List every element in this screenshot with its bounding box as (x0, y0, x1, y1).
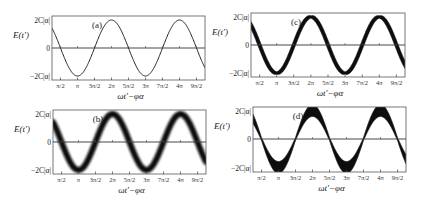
y-tick-label: −2C|α| (229, 69, 249, 78)
x-tick-label: π/2 (57, 176, 65, 183)
x-tick-label: 3π (142, 82, 149, 89)
y-tick-label: 2C|α| (34, 16, 50, 25)
y-axis-title: E(t′) (12, 30, 29, 40)
x-tick-label: 9π/2 (391, 79, 403, 86)
x-tick-label: 4π (377, 174, 384, 181)
x-tick-label: 3π/2 (290, 174, 302, 181)
y-tick-label: 0 (47, 138, 51, 147)
x-tick-label: 7π/2 (158, 176, 170, 183)
x-tick-label: π (275, 79, 279, 86)
y-tick-label: 2C|α| (235, 107, 251, 116)
x-tick-label: 2π (308, 79, 315, 86)
panel-b: π/2π3π/22π5π/23π7π/24π9π/22C|α|0−2C|α|E(… (13, 110, 206, 195)
x-tick-label: π/2 (257, 174, 265, 181)
x-tick-label: 4π (177, 176, 184, 183)
x-tick-label: 5π/2 (123, 82, 135, 89)
x-tick-label: 2π (309, 174, 316, 181)
x-axis-title: ωt′−φα (118, 185, 145, 195)
x-axis-title: ωt′−φα (117, 91, 144, 101)
x-tick-label: 3π (342, 79, 349, 86)
x-tick-label: 5π/2 (322, 79, 334, 86)
y-tick-label: −2C|α| (31, 166, 51, 175)
figure: π/2π3π/22π5π/23π7π/24π9π/22C|α|0−2C|α|E(… (0, 0, 427, 202)
x-tick-label: 2π (108, 82, 115, 89)
y-tick-label: 0 (46, 44, 50, 53)
y-tick-label: −2C|α| (231, 164, 251, 173)
x-tick-label: 9π/2 (192, 176, 204, 183)
x-tick-label: 7π/2 (356, 79, 368, 86)
x-tick-label: 5π/2 (324, 174, 336, 181)
x-tick-label: 3π (343, 174, 350, 181)
x-tick-label: 3π (143, 176, 150, 183)
y-axis-title: E(t′) (13, 124, 30, 134)
x-tick-label: 7π/2 (358, 174, 370, 181)
y-tick-label: −2C|α| (30, 72, 50, 81)
panel-c: π/2π3π/22π5π/23π7π/24π9π/22C|α|0−2C|α|E(… (211, 13, 405, 98)
x-tick-label: π/2 (56, 82, 64, 89)
x-tick-label: π (76, 82, 80, 89)
x-tick-label: 2π (109, 176, 116, 183)
y-tick-label: 2C|α| (233, 13, 249, 22)
x-tick-label: π (277, 174, 281, 181)
panel-label: (b) (93, 114, 104, 124)
y-tick-label: 0 (245, 41, 249, 50)
y-tick-label: 2C|α| (35, 110, 51, 119)
x-tick-label: π (77, 176, 81, 183)
panel-a: π/2π3π/22π5π/23π7π/24π9π/22C|α|0−2C|α|E(… (12, 16, 205, 101)
x-tick-label: 9π/2 (191, 82, 203, 89)
x-tick-label: 4π (376, 79, 383, 86)
y-axis-title: E(t′) (211, 27, 228, 37)
x-tick-label: 9π/2 (392, 174, 404, 181)
x-tick-label: 7π/2 (157, 82, 169, 89)
panel-label: (c) (291, 17, 301, 27)
panel-label: (a) (92, 20, 102, 30)
y-tick-label: 0 (247, 135, 251, 144)
x-axis-title: ωt′−φα (318, 183, 345, 193)
x-tick-label: π/2 (255, 79, 263, 86)
panel-label: (d) (293, 111, 304, 121)
x-tick-label: 3π/2 (90, 176, 102, 183)
x-tick-label: 3π/2 (288, 79, 300, 86)
panel-d: π/2π3π/22π5π/23π7π/24π9π/22C|α|0−2C|α|E(… (213, 105, 406, 194)
x-axis-title: ωt′−φα (317, 88, 344, 98)
y-axis-title: E(t′) (213, 121, 230, 131)
x-tick-label: 5π/2 (124, 176, 136, 183)
x-tick-label: 3π/2 (89, 82, 101, 89)
x-tick-label: 4π (176, 82, 183, 89)
